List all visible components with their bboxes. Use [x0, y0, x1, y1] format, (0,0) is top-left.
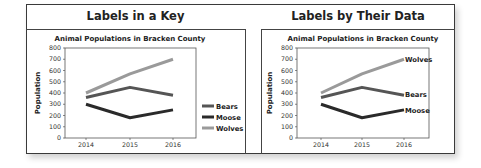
charts-svg: Animal Populations in Bracken County 010…: [0, 0, 481, 168]
left-chart-title: Animal Populations in Bracken County: [55, 35, 206, 43]
left-y-axis-label: Population: [34, 72, 42, 115]
svg-text:2015: 2015: [354, 141, 370, 148]
svg-text:300: 300: [49, 100, 61, 107]
svg-text:800: 800: [281, 44, 293, 51]
legend-label-bears: Bears: [216, 103, 238, 111]
svg-text:300: 300: [281, 100, 293, 107]
svg-text:2014: 2014: [78, 141, 94, 148]
svg-text:200: 200: [49, 112, 61, 119]
legend-label-wolves: Wolves: [216, 125, 243, 133]
right-chart-title: Animal Populations in Bracken County: [288, 35, 439, 43]
svg-text:500: 500: [281, 78, 293, 85]
right-chart: Animal Populations in Bracken County 010…: [266, 35, 439, 148]
svg-text:0: 0: [289, 134, 293, 141]
legend-label-moose: Moose: [216, 114, 241, 122]
svg-text:100: 100: [281, 123, 293, 130]
right-y-ticks: 0100200300400500600700800: [281, 44, 297, 141]
series-line-moose: [321, 104, 404, 118]
svg-text:600: 600: [49, 67, 61, 74]
svg-text:400: 400: [281, 89, 293, 96]
svg-text:2016: 2016: [165, 141, 181, 148]
left-series-lines: [86, 59, 173, 118]
direct-label-moose: Moose: [405, 107, 430, 115]
svg-text:200: 200: [281, 112, 293, 119]
left-chart: Animal Populations in Bracken County 010…: [34, 35, 243, 148]
left-y-ticks: 0100200300400500600700800: [49, 44, 65, 141]
svg-text:100: 100: [49, 123, 61, 130]
svg-text:700: 700: [281, 55, 293, 62]
right-series-lines: [321, 59, 404, 118]
right-y-axis-label: Population: [266, 72, 274, 115]
left-x-ticks: 201420152016: [78, 138, 181, 148]
svg-text:2016: 2016: [396, 141, 412, 148]
svg-text:600: 600: [281, 67, 293, 74]
svg-text:800: 800: [49, 44, 61, 51]
svg-text:700: 700: [49, 55, 61, 62]
direct-label-wolves: Wolves: [405, 56, 432, 64]
svg-text:0: 0: [57, 134, 61, 141]
svg-text:400: 400: [49, 89, 61, 96]
series-line-bears: [321, 87, 404, 97]
svg-text:500: 500: [49, 78, 61, 85]
right-x-ticks: 201420152016: [313, 138, 412, 148]
direct-label-bears: Bears: [405, 91, 427, 99]
series-line-moose: [86, 104, 173, 118]
svg-text:2015: 2015: [122, 141, 138, 148]
left-plot-area: [65, 48, 196, 138]
svg-text:2014: 2014: [313, 141, 329, 148]
